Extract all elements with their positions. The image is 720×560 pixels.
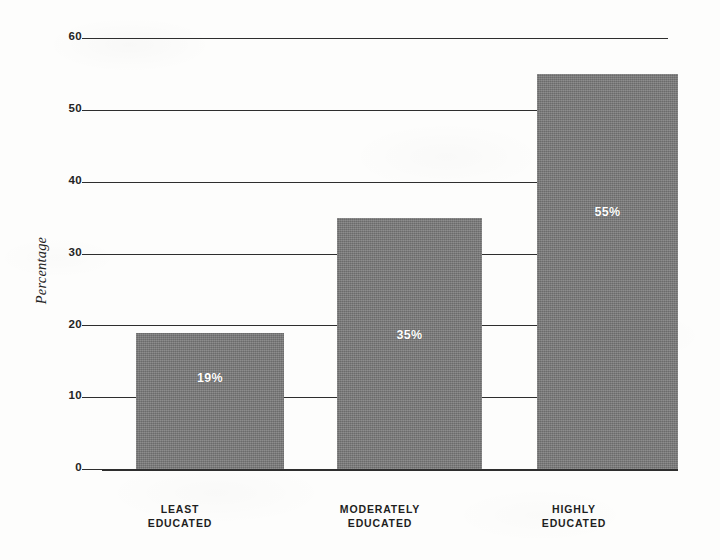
x-tick-label-moderately-educated: MODERATELY EDUCATED (300, 502, 460, 530)
y-tick-mark-60 (82, 38, 104, 39)
y-tick-label-30: 30 (69, 246, 82, 258)
y-tick-mark-40 (82, 182, 104, 183)
x-tick-label-line2: EDUCATED (300, 516, 460, 530)
y-tick-mark-0 (82, 469, 104, 470)
axis-baseline (102, 469, 678, 471)
plot-area: 19% 35% 55% (104, 38, 668, 469)
y-tick-mark-30 (82, 254, 104, 255)
y-tick-mark-50 (82, 110, 104, 111)
x-tick-label-least-educated: LEAST EDUCATED (106, 502, 254, 530)
gridline-60 (104, 38, 668, 39)
bar-highly-educated[interactable]: 55% (537, 74, 678, 469)
y-tick-label-20: 20 (69, 318, 82, 330)
x-tick-label-line1: MODERATELY (300, 502, 460, 516)
x-tick-label-line2: EDUCATED (106, 516, 254, 530)
x-tick-label-line2: EDUCATED (500, 516, 648, 530)
bar-chart-figure: 60 50 40 30 20 10 0 Percentage 19% 35% (0, 0, 720, 560)
bar-moderately-educated[interactable]: 35% (337, 218, 482, 469)
x-tick-label-line1: LEAST (106, 502, 254, 516)
bar-value-moderately-educated: 35% (337, 328, 482, 342)
y-tick-label-50: 50 (69, 102, 82, 114)
y-tick-label-60: 60 (69, 30, 82, 42)
y-tick-mark-10 (82, 397, 104, 398)
bar-value-least-educated: 19% (136, 371, 284, 385)
bar-value-highly-educated: 55% (537, 205, 678, 219)
bar-least-educated[interactable]: 19% (136, 333, 284, 470)
y-tick-mark-20 (82, 325, 104, 326)
y-tick-label-40: 40 (69, 174, 82, 186)
y-tick-label-0: 0 (75, 461, 82, 473)
x-tick-label-highly-educated: HIGHLY EDUCATED (500, 502, 648, 530)
x-tick-label-line1: HIGHLY (500, 502, 648, 516)
y-axis-title: Percentage (33, 216, 50, 326)
y-tick-label-10: 10 (69, 389, 82, 401)
